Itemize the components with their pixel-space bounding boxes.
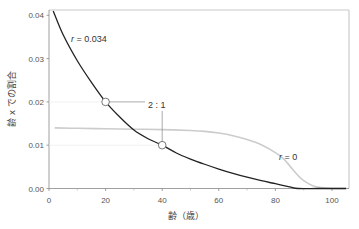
y-tick-label: 0.03 — [28, 55, 44, 64]
x-tick-label: 40 — [158, 196, 167, 205]
label-r-0: r = 0 — [279, 152, 297, 162]
x-tick-label: 80 — [271, 196, 280, 205]
open-circle-marker — [158, 141, 166, 149]
x-axis-label: 齢（歳） — [168, 210, 204, 221]
x-tick-label: 20 — [101, 196, 110, 205]
label-r-0034: r = 0.034 — [71, 34, 107, 44]
y-tick-label: 0.04 — [28, 11, 44, 20]
y-axis-label: 齢 x での割合 — [6, 71, 17, 127]
line-chart: 020406080100 0.000.010.020.030.04 r = 0.… — [0, 0, 359, 229]
series-r-0 — [55, 128, 346, 189]
y-tick-label: 0.01 — [28, 141, 44, 150]
x-tick-label: 60 — [214, 196, 223, 205]
x-tick-label: 100 — [325, 196, 339, 205]
y-tick-label: 0.02 — [28, 98, 44, 107]
x-axis-ticks: 020406080100 — [47, 189, 339, 206]
label-ratio: 2 : 1 — [148, 100, 166, 110]
open-circle-marker — [102, 98, 110, 106]
x-tick-label: 0 — [47, 196, 52, 205]
y-tick-label: 0.00 — [28, 185, 44, 194]
